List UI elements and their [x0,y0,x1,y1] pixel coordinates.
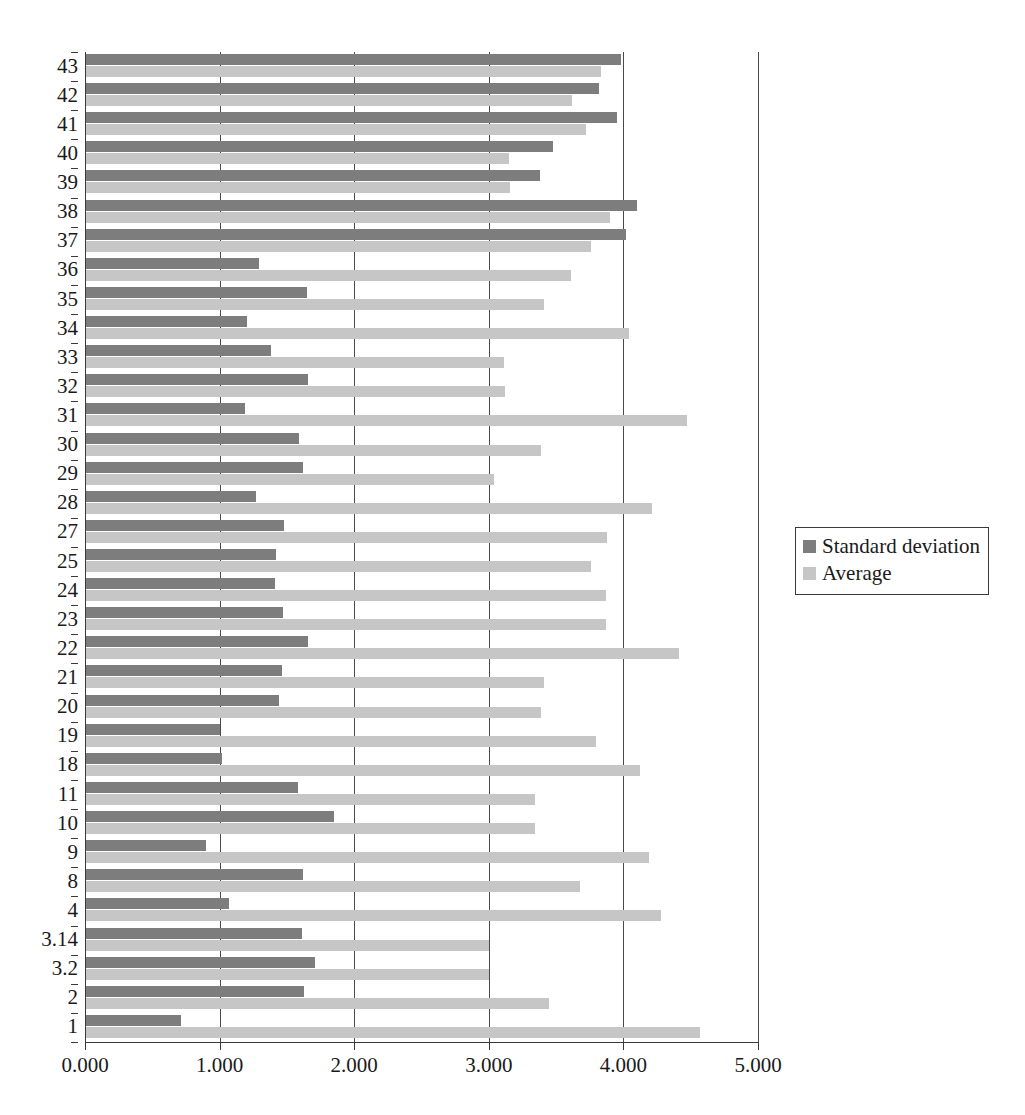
x-axis-line [85,1042,759,1043]
bar-average [85,590,606,601]
bar-standard-deviation [85,986,304,997]
bar-standard-deviation [85,316,247,327]
legend-item-standard-deviation: Standard deviation [803,533,980,560]
bar-group [85,926,758,955]
bar-average [85,940,489,951]
x-axis-tick-mark [85,1043,86,1050]
y-axis-tick-label: 35 [6,289,78,310]
x-axis-tick-mark [623,1043,624,1050]
y-axis-tick-label: 30 [6,434,78,455]
y-axis-tick-label: 2 [6,987,78,1008]
bar-group [85,256,758,285]
x-axis-tick-label: 5.000 [703,1054,813,1077]
x-axis-tick-mark [220,1043,221,1050]
bar-average [85,707,541,718]
bar-group [85,722,758,751]
bar-average [85,619,606,630]
y-axis-tick-label: 31 [6,405,78,426]
bar-average [85,299,544,310]
bar-average [85,648,679,659]
y-axis-tick-mark [71,81,78,82]
x-axis-tick-label: 0.000 [30,1054,140,1077]
bar-group [85,81,758,110]
bar-standard-deviation [85,840,206,851]
bar-average [85,969,489,980]
y-axis-tick-mark [71,722,78,723]
y-axis-tick-mark [71,489,78,490]
bar-group [85,838,758,867]
y-axis-tick-label: 36 [6,259,78,280]
bar-group [85,780,758,809]
y-axis-tick-label: 25 [6,551,78,572]
bar-average [85,445,541,456]
y-axis-tick-label: 3.14 [6,929,78,950]
bar-group [85,605,758,634]
y-axis-tick-label: 40 [6,143,78,164]
y-axis-tick-mark [71,576,78,577]
bar-standard-deviation [85,578,275,589]
bar-standard-deviation [85,753,222,764]
bar-standard-deviation [85,345,271,356]
bar-group [85,401,758,430]
x-axis-tick-mark [489,1043,490,1050]
bar-group [85,547,758,576]
bar-standard-deviation [85,170,540,181]
y-axis-tick-mark [71,838,78,839]
y-axis-tick-label: 24 [6,580,78,601]
y-axis-tick-label: 39 [6,172,78,193]
y-axis-tick-label: 22 [6,638,78,659]
bar-standard-deviation [85,724,220,735]
y-axis-tick-label: 42 [6,85,78,106]
y-axis-tick-mark [71,285,78,286]
bar-group [85,431,758,460]
bar-group [85,198,758,227]
y-axis-tick-mark [71,809,78,810]
bar-group [85,896,758,925]
bar-standard-deviation [85,112,617,123]
bar-group [85,227,758,256]
bar-standard-deviation [85,695,279,706]
bar-group [85,372,758,401]
bar-standard-deviation [85,811,334,822]
bar-group [85,139,758,168]
y-axis-tick-label: 3.2 [6,958,78,979]
y-axis-tick-mark [71,751,78,752]
bar-average [85,415,687,426]
y-axis-tick-mark [71,1013,78,1014]
bar-average [85,532,607,543]
y-axis-tick-label: 10 [6,813,78,834]
bar-standard-deviation [85,258,259,269]
bar-average [85,503,652,514]
y-axis-tick-label: 23 [6,609,78,630]
bar-average [85,736,596,747]
bar-group [85,663,758,692]
bar-average [85,677,544,688]
bar-average [85,66,601,77]
bar-group [85,110,758,139]
bar-average [85,852,649,863]
y-axis-tick-mark [71,547,78,548]
y-axis-tick-mark [71,431,78,432]
bar-group [85,285,758,314]
bar-average [85,241,591,252]
y-axis-tick-label: 20 [6,696,78,717]
bar-group [85,955,758,984]
bar-average [85,998,549,1009]
y-axis-tick-label: 27 [6,521,78,542]
bar-standard-deviation [85,607,283,618]
y-axis-tick-mark [71,227,78,228]
bar-standard-deviation [85,957,315,968]
bar-standard-deviation [85,549,276,560]
bar-average [85,561,591,572]
y-axis-tick-mark [71,314,78,315]
y-axis-tick-mark [71,372,78,373]
y-axis-tick-label: 34 [6,318,78,339]
x-axis-tick-mark [758,1043,759,1050]
y-axis-tick-mark [71,198,78,199]
y-axis-tick-label: 9 [6,842,78,863]
bar-group [85,52,758,81]
bar-standard-deviation [85,782,298,793]
y-axis-tick-mark [71,867,78,868]
legend: Standard deviation Average [795,527,989,595]
bar-average [85,881,580,892]
